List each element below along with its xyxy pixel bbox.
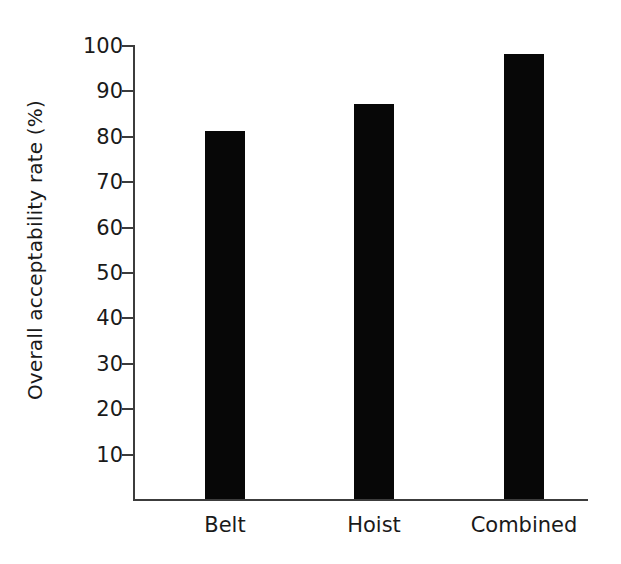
y-tick-label: 60 [96,217,123,238]
y-tick-mark [122,272,133,274]
y-tick-mark [122,408,133,410]
y-tick-label: 20 [96,399,123,420]
y-tick-label: 40 [96,308,123,329]
x-axis-line [133,499,588,501]
bar-hoist [354,104,394,499]
y-tick-mark [122,227,133,229]
y-axis-line [133,45,135,501]
bar-belt [205,131,245,499]
y-tick-label: 90 [96,81,123,102]
y-tick-mark [122,90,133,92]
y-tick-mark [122,45,133,47]
y-tick-mark [122,136,133,138]
bar-combined [504,54,544,499]
y-tick-mark [122,454,133,456]
y-tick-label: 100 [83,36,123,57]
y-tick-mark [122,317,133,319]
y-tick-label: 10 [96,444,123,465]
y-tick-label: 70 [96,172,123,193]
y-tick-label: 30 [96,353,123,374]
x-axis-label-combined: Combined [471,515,578,536]
y-tick-mark [122,363,133,365]
x-axis-label-belt: Belt [204,515,245,536]
y-tick-mark [122,181,133,183]
x-axis-label-hoist: Hoist [347,515,401,536]
bar-chart-figure: Overall acceptability rate (%) 102030405… [0,0,621,564]
y-tick-label: 80 [96,126,123,147]
y-axis-title: Overall acceptability rate (%) [18,20,52,480]
y-tick-label: 50 [96,263,123,284]
plot-area: 102030405060708090100 BeltHoistCombined [133,45,588,501]
